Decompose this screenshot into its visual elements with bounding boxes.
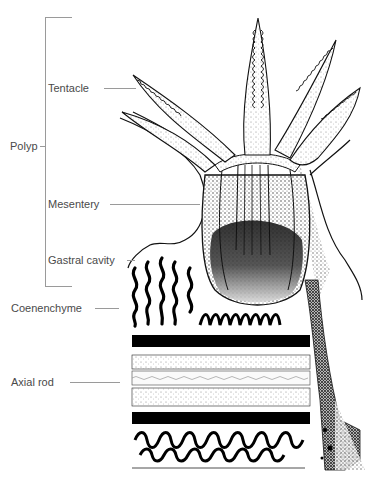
coenenchyme-label: Coenenchyme (11, 302, 82, 314)
axial-rod-label: Axial rod (11, 376, 54, 388)
tentacle-label: Tentacle (48, 82, 89, 94)
polyp-bracket-bottom (45, 286, 72, 287)
polyp-bracket-vertical (45, 17, 46, 286)
axial-rod (132, 335, 310, 424)
polyp-label: Polyp (10, 140, 38, 152)
polyp-bracket-top (45, 17, 72, 18)
tentacle-leader (104, 88, 136, 89)
tentacles (122, 18, 360, 172)
coenenchyme-left (133, 258, 191, 326)
gastral-cavity-leader (127, 260, 135, 261)
polyp-bracket-tick (40, 146, 46, 147)
polyp-illustration (0, 0, 379, 487)
axial-rod-leader (70, 382, 120, 383)
mesentery-leader (110, 204, 200, 205)
coenenchyme-leader (95, 308, 119, 309)
coenenchyme-canals-bottom (200, 315, 280, 326)
mesentery-label: Mesentery (48, 198, 99, 210)
coenenchyme-canals-lower (135, 433, 303, 448)
gastral-cavity-label: Gastral cavity (48, 254, 115, 266)
gastral-sac (202, 154, 310, 305)
